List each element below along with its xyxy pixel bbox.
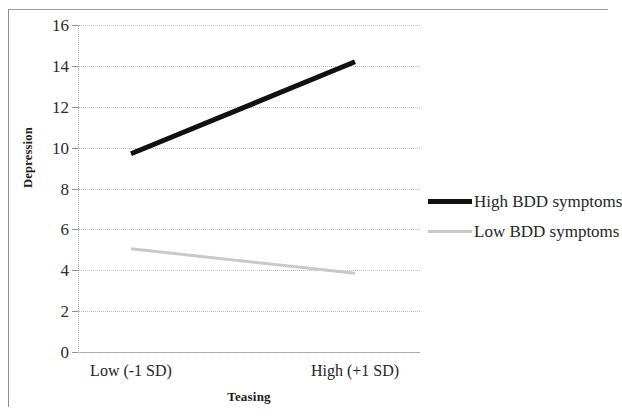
y-tick-label: 8: [61, 180, 70, 197]
y-tick-label: 4: [61, 262, 70, 279]
y-tick-mark: [72, 270, 78, 271]
y-tick-label: 10: [52, 139, 69, 156]
y-tick-label: 14: [52, 57, 69, 74]
y-tick-mark: [72, 229, 78, 230]
legend-swatch-line: [428, 230, 472, 233]
y-tick-label: 6: [61, 221, 70, 238]
y-tick-mark: [72, 311, 78, 312]
legend-label: Low BDD symptoms: [474, 223, 619, 240]
legend-swatch-line: [428, 199, 472, 204]
chart-legend: High BDD symptomsLow BDD symptoms: [428, 186, 608, 246]
y-tick-mark: [72, 66, 78, 67]
y-tick-mark: [72, 148, 78, 149]
gridline: [78, 148, 420, 149]
x-tick-label: Low (-1 SD): [90, 362, 172, 380]
y-axis-title: Depression: [21, 127, 36, 188]
legend-item[interactable]: High BDD symptoms: [428, 186, 608, 216]
y-tick-mark: [72, 189, 78, 190]
y-tick-label: 2: [61, 303, 70, 320]
y-tick-label: 0: [61, 344, 70, 361]
gridline: [78, 352, 420, 353]
gridline: [78, 229, 420, 230]
y-tick-mark: [72, 352, 78, 353]
gridline: [78, 25, 420, 26]
gridline: [78, 66, 420, 67]
gridline: [78, 270, 420, 271]
x-axis-title: Teasing: [227, 389, 271, 405]
legend-label: High BDD symptoms: [474, 193, 622, 210]
gridline: [78, 189, 420, 190]
y-tick-label: 16: [52, 17, 69, 34]
legend-swatch-icon: [428, 199, 472, 204]
y-tick-label: 12: [52, 98, 69, 115]
plot-area: 1614121086420: [78, 25, 420, 352]
y-tick-mark: [72, 25, 78, 26]
legend-item[interactable]: Low BDD symptoms: [428, 216, 608, 246]
y-tick-mark: [72, 107, 78, 108]
gridline: [78, 107, 420, 108]
gridline: [78, 311, 420, 312]
x-tick-label: High (+1 SD): [311, 362, 399, 380]
legend-swatch-icon: [428, 230, 472, 233]
